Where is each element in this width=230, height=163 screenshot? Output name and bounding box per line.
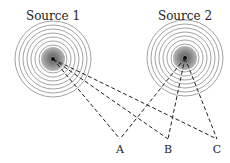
path-line	[120, 58, 185, 139]
point-a-label: A	[115, 143, 125, 156]
source-2-label: Source 2	[158, 9, 212, 23]
path-line	[53, 59, 120, 139]
point-c-label: C	[213, 143, 221, 156]
source-1-label: Source 1	[26, 9, 80, 23]
path-line	[168, 58, 185, 139]
point-b-label: B	[164, 143, 172, 156]
path-line	[53, 59, 168, 139]
interference-diagram: Source 1 Source 2 A B C	[0, 0, 230, 163]
path-line	[53, 59, 217, 139]
